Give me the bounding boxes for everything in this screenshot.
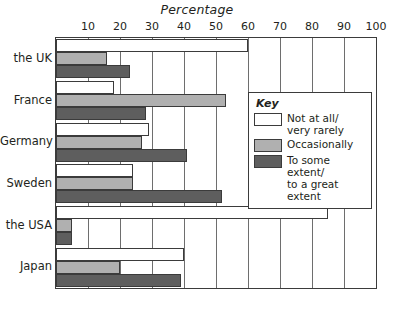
x-tick-label-70: 70	[265, 20, 295, 33]
legend-item-1: Occasionally	[254, 138, 366, 152]
bar-chart: Percentage 102030405060708090100 the UKF…	[0, 0, 394, 309]
legend-swatch-0	[254, 113, 282, 126]
bar-the-usa-series-1	[56, 219, 72, 232]
bar-germany-series-0	[56, 123, 149, 136]
bar-the-uk-series-2	[56, 65, 130, 78]
x-tick-label-20: 20	[105, 20, 135, 33]
legend-item-0: Not at all/ very rarely	[254, 112, 366, 136]
bar-france-series-2	[56, 107, 146, 120]
x-tick-label-30: 30	[137, 20, 167, 33]
bar-sweden-series-2	[56, 190, 222, 203]
legend-label-0: Not at all/ very rarely	[287, 112, 344, 136]
legend-label-1: Occasionally	[287, 138, 353, 150]
y-label-japan: Japan	[0, 259, 52, 273]
bar-the-uk-series-0	[56, 39, 248, 52]
bar-the-uk-series-1	[56, 52, 107, 65]
bar-japan-series-1	[56, 261, 120, 274]
legend-title: Key	[256, 97, 366, 110]
y-label-the-uk: the UK	[0, 51, 52, 65]
bar-germany-series-1	[56, 136, 142, 149]
legend-label-2: To some extent/ to a great extent	[287, 154, 366, 202]
y-label-sweden: Sweden	[0, 176, 52, 190]
x-tick-label-90: 90	[329, 20, 359, 33]
bar-france-series-0	[56, 81, 114, 94]
legend-swatch-2	[254, 155, 282, 168]
bar-sweden-series-1	[56, 177, 133, 190]
x-tick-label-60: 60	[233, 20, 263, 33]
y-label-germany: Germany	[0, 134, 52, 148]
x-tick-label-100: 100	[361, 20, 391, 33]
legend-items: Not at all/ very rarelyOccasionallyTo so…	[254, 112, 366, 202]
legend: Key Not at all/ very rarelyOccasionallyT…	[248, 92, 372, 209]
bar-japan-series-2	[56, 274, 181, 287]
x-tick-label-50: 50	[201, 20, 231, 33]
y-label-france: France	[0, 93, 52, 107]
x-tick-label-80: 80	[297, 20, 327, 33]
chart-title: Percentage	[0, 2, 394, 17]
y-label-the-usa: the USA	[0, 218, 52, 232]
x-tick-label-10: 10	[73, 20, 103, 33]
bar-japan-series-0	[56, 248, 184, 261]
bar-group-the-uk	[56, 38, 376, 80]
bar-germany-series-2	[56, 149, 187, 162]
bar-group-japan	[56, 246, 376, 288]
bar-france-series-1	[56, 94, 226, 107]
bar-the-usa-series-2	[56, 232, 72, 245]
x-tick-label-40: 40	[169, 20, 199, 33]
bar-group-the-usa	[56, 205, 376, 247]
legend-swatch-1	[254, 139, 282, 152]
bar-sweden-series-0	[56, 164, 133, 177]
legend-item-2: To some extent/ to a great extent	[254, 154, 366, 202]
